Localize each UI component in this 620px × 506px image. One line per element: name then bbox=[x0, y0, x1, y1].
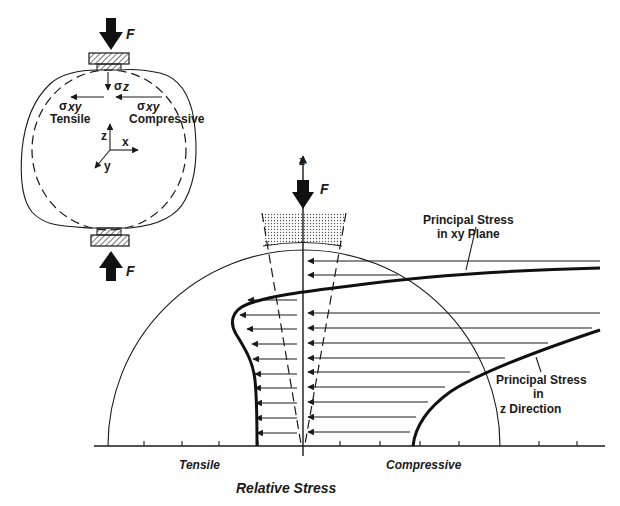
force-label-main: F bbox=[320, 181, 329, 197]
force-arrow-main-icon bbox=[292, 180, 314, 209]
label-z-line2: in bbox=[533, 387, 544, 401]
bottom-platen bbox=[91, 235, 129, 246]
specimen-section-arc bbox=[108, 250, 500, 446]
label-z-line3: z Direction bbox=[500, 402, 561, 416]
top-platen-neck bbox=[97, 64, 121, 70]
leader-z bbox=[536, 357, 541, 372]
curve-principal-stress-z bbox=[413, 330, 600, 446]
stress-diagram: F σ z σ xy σ xy Tensile Compressive z x … bbox=[0, 0, 620, 506]
x-right-label: Compressive bbox=[386, 458, 462, 472]
contact-zone-stipple bbox=[262, 213, 346, 246]
label-z-line1: Principal Stress bbox=[496, 373, 587, 387]
original-outline bbox=[32, 70, 186, 230]
sigma-xy-left-symbol: σ bbox=[59, 99, 67, 113]
x-axis-ticks bbox=[144, 441, 577, 446]
z-axis-label: z bbox=[299, 154, 305, 168]
axis-y-inset: y bbox=[104, 159, 111, 173]
sigma-z-symbol: σ bbox=[114, 79, 122, 93]
sigma-xy-right-symbol: σ bbox=[137, 99, 145, 113]
sigma-z-label: z bbox=[122, 80, 129, 94]
x-axis-title: Relative Stress bbox=[236, 480, 337, 496]
label-xy-line2: in xy Plane bbox=[437, 227, 500, 241]
compressive-label-inset: Compressive bbox=[129, 112, 205, 126]
force-arrow-top-icon bbox=[99, 18, 123, 50]
label-xy-line1: Principal Stress bbox=[423, 213, 514, 227]
bottom-platen-neck bbox=[97, 228, 121, 235]
force-arrow-bottom-icon bbox=[99, 251, 123, 281]
axis-x-inset: x bbox=[122, 135, 129, 149]
top-platen bbox=[89, 53, 129, 64]
axis-z-inset: z bbox=[101, 129, 107, 143]
force-label-bottom: F bbox=[126, 263, 135, 279]
tensile-label-inset: Tensile bbox=[50, 112, 91, 126]
deformed-outline bbox=[21, 70, 196, 228]
force-label-top: F bbox=[126, 26, 135, 42]
curve-principal-stress-xy bbox=[232, 268, 600, 446]
stress-distribution-plot: z F bbox=[94, 154, 605, 496]
inset-specimen-diagram: F σ z σ xy σ xy Tensile Compressive z x … bbox=[21, 18, 204, 281]
x-left-label: Tensile bbox=[179, 458, 220, 472]
